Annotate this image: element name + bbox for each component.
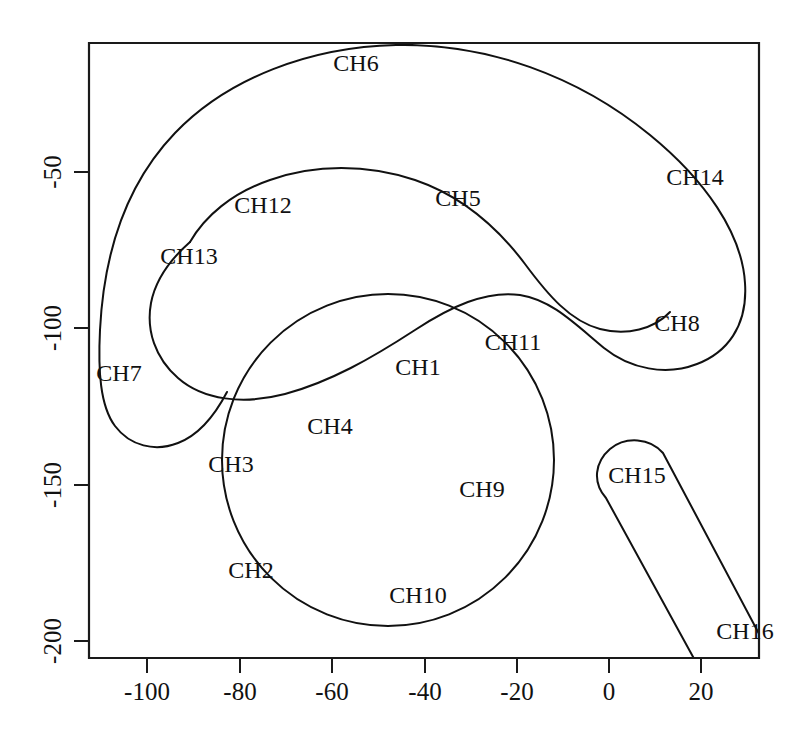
x-tick-label: 20: [689, 678, 714, 705]
region-label-ch14: CH14: [666, 164, 723, 190]
region-label-ch10: CH10: [389, 582, 446, 608]
x-axis-ticks: [147, 658, 701, 673]
region-labels: CH6 CH14 CH5 CH12 CH13 CH8 CH11 CH7 CH1 …: [96, 50, 773, 644]
x-tick-label: 0: [603, 678, 616, 705]
y-tick-label: -50: [39, 155, 66, 188]
x-tick-label: -100: [124, 678, 170, 705]
y-tick-label: -200: [39, 618, 66, 664]
x-tick-label: -80: [223, 678, 256, 705]
region-label-ch4: CH4: [307, 413, 352, 439]
y-tick-label: -100: [39, 305, 66, 351]
region-label-ch8: CH8: [654, 310, 699, 336]
x-tick-label: -60: [315, 678, 348, 705]
region-label-ch15: CH15: [608, 462, 665, 488]
region-label-ch12: CH12: [234, 192, 291, 218]
region-label-ch7: CH7: [96, 360, 141, 386]
plot-frame: [89, 43, 759, 658]
contour-group: [99, 45, 796, 746]
y-axis-ticks: [74, 172, 89, 641]
region-label-ch13: CH13: [160, 243, 217, 269]
region-label-ch5: CH5: [435, 185, 480, 211]
region-label-ch11: CH11: [485, 329, 541, 355]
contour-outer-crescent-left-hook: [99, 330, 227, 447]
contour-plot-figure: -100 -80 -60 -40 -20 0 20 -50 -100 -150 …: [0, 0, 806, 749]
region-label-ch16: CH16: [716, 618, 773, 644]
plot-svg: -100 -80 -60 -40 -20 0 20 -50 -100 -150 …: [0, 0, 806, 749]
x-tick-label: -40: [408, 678, 441, 705]
x-axis-tick-labels: -100 -80 -60 -40 -20 0 20: [124, 678, 713, 705]
region-label-ch2: CH2: [228, 557, 273, 583]
region-label-ch1: CH1: [395, 354, 440, 380]
y-axis-tick-labels: -50 -100 -150 -200: [39, 155, 66, 664]
region-label-ch6: CH6: [333, 50, 378, 76]
x-tick-label: -20: [500, 678, 533, 705]
region-label-ch9: CH9: [459, 476, 504, 502]
region-label-ch3: CH3: [208, 451, 253, 477]
contour-outer-crescent: [100, 45, 745, 400]
y-tick-label: -150: [39, 462, 66, 508]
